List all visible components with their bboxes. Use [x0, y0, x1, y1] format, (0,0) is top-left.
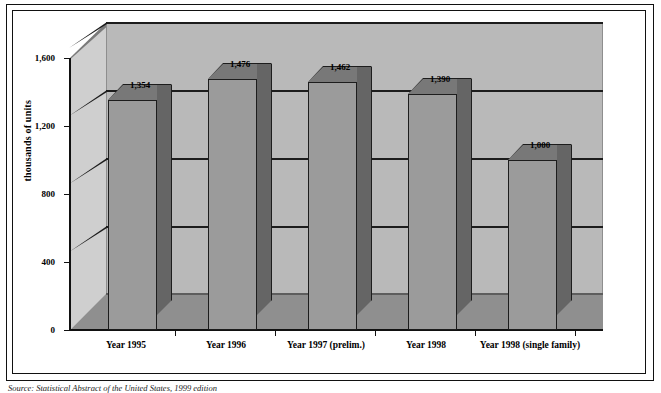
y-axis-title: thousands of units: [22, 100, 40, 181]
gridline-800-left: [69, 158, 107, 184]
bar-value-label-year-1998: 1,390: [430, 74, 450, 84]
y-tick-800: 800: [64, 194, 70, 195]
bar-year-1998-single-family-side: [557, 145, 572, 315]
bar-year-1998-front: [408, 94, 457, 330]
x-axis-label-year-1995: Year 1995: [106, 340, 146, 350]
y-tick-label-800: 800: [42, 189, 56, 199]
bar-value-label-year-1998-single-family: 1,000: [530, 140, 550, 150]
y-tick-label-0: 0: [51, 325, 56, 335]
bar-year-1998-single-family-front: [508, 160, 557, 330]
x-tick-2: [275, 330, 276, 336]
gridline-1200-left: [69, 90, 107, 116]
gridline-1600-left: [69, 22, 107, 48]
y-tick-1200: 1,200: [64, 126, 70, 127]
bar-year-1998[interactable]: [408, 94, 457, 330]
source-caption: Source: Statistical Abstract of the Unit…: [8, 383, 217, 393]
bar-year-1998-side: [457, 79, 472, 315]
bar-value-label-year-1995: 1,354: [130, 80, 150, 90]
bar-year-1996-side: [257, 64, 272, 315]
bar-value-label-year-1996: 1,476: [230, 59, 250, 69]
bar-year-1996-front: [208, 79, 257, 330]
y-tick-label-400: 400: [42, 257, 56, 267]
bar-year-1997-front: [308, 82, 357, 330]
bar-year-1997[interactable]: [308, 82, 357, 330]
bar-year-1995-front: [108, 100, 157, 330]
x-axis-label-year-1996: Year 1996: [206, 340, 246, 350]
bar-year-1996[interactable]: [208, 79, 257, 330]
y-tick-label-1600: 1,600: [35, 53, 55, 63]
x-tick-3: [375, 330, 376, 336]
y-tick-1600: 1,600: [64, 58, 70, 59]
x-tick-5: [575, 330, 576, 336]
gridline-1600: [106, 22, 603, 24]
y-tick-400: 400: [64, 262, 70, 263]
plot-area: 0 400 800 1,200 1,600 Year 1995 Year 199…: [70, 22, 603, 330]
bar-year-1997-side: [357, 67, 372, 315]
x-axis-label-year-1997: Year 1997 (prelim.): [287, 340, 365, 350]
y-tick-label-1200: 1,200: [35, 121, 55, 131]
x-axis-label-year-1998-single-family: Year 1998 (single family): [480, 340, 580, 350]
bar-year-1998-single-family[interactable]: [508, 160, 557, 330]
x-axis-label-year-1998: Year 1998: [406, 340, 446, 350]
bar-year-1995-side: [157, 85, 172, 315]
x-tick-4: [475, 330, 476, 336]
bar-value-label-year-1997: 1,462: [330, 62, 350, 72]
bar-year-1995[interactable]: [108, 100, 157, 330]
gridline-400-left: [69, 226, 107, 252]
x-tick-1: [175, 330, 176, 336]
